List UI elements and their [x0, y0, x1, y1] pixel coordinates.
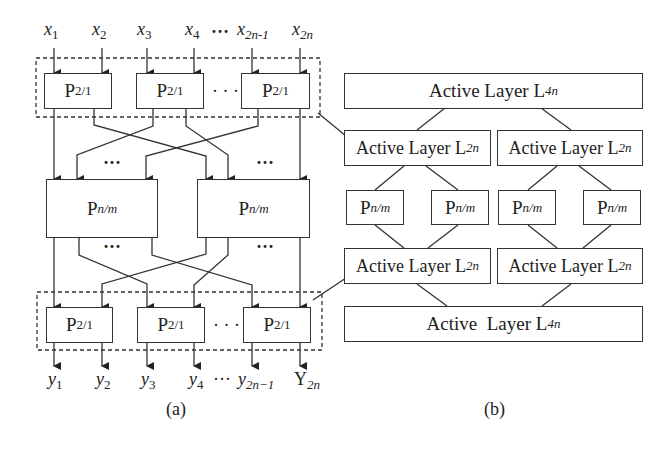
- caption-b: (b): [484, 399, 505, 420]
- box-base: P: [263, 314, 274, 336]
- module-pnm-4: Pn/m: [583, 190, 641, 225]
- box-subscript: n/m: [98, 201, 118, 217]
- input-label-x2n-1: x2n-1: [237, 20, 269, 41]
- module-pnm-1: Pn/m: [346, 190, 404, 225]
- box-subscript: n/m: [456, 200, 476, 216]
- box-subscript: n/m: [523, 200, 543, 216]
- active-layer-l2n-lower-right: Active Layer L2n: [497, 248, 643, 284]
- box-base: P: [66, 314, 77, 336]
- module-pnm-3: Pn/m: [498, 190, 556, 225]
- layer-text: Active Layer L: [427, 313, 548, 335]
- input-subscript: 2n: [300, 27, 313, 42]
- module-pnm-2: Pn/m: [431, 190, 489, 225]
- layer-subscript: 2n: [618, 140, 631, 156]
- output-base: Y: [294, 369, 307, 389]
- top-permuter-box-3: P2/1: [241, 73, 310, 109]
- layer-text: Active Layer L: [356, 138, 466, 159]
- input-base: x: [292, 19, 300, 39]
- output-base: y: [238, 369, 246, 389]
- input-subscript: 4: [193, 27, 200, 42]
- input-label-x4: x4: [185, 20, 200, 41]
- box-base: P: [512, 197, 523, 219]
- box-base: P: [64, 80, 75, 102]
- active-layer-l4n-top: Active Layer L4n: [344, 73, 643, 109]
- top-permuter-box-2: P2/1: [136, 73, 204, 109]
- box-subscript: 2/1: [168, 317, 185, 333]
- box-subscript: 2/1: [272, 83, 289, 99]
- input-base: x: [237, 19, 245, 39]
- layer-subscript: 2n: [466, 258, 479, 274]
- output-subscript: 2: [104, 377, 111, 392]
- layer-subscript: 2n: [618, 258, 631, 274]
- box-subscript: n/m: [249, 201, 269, 217]
- top-permuter-box-1: P2/1: [44, 73, 112, 109]
- bottom-permuter-box-2: P2/1: [137, 307, 205, 343]
- input-label-x2: x2: [92, 20, 107, 41]
- input-base: x: [185, 19, 193, 39]
- box-subscript: 2/1: [76, 317, 93, 333]
- input-base: x: [44, 19, 52, 39]
- box-base: P: [238, 198, 249, 220]
- output-base: y: [189, 369, 197, 389]
- output-subscript: 3: [149, 377, 156, 392]
- box-subscript: n/m: [371, 200, 391, 216]
- output-subscript: 2n: [307, 377, 320, 392]
- output-label-y2: y2: [96, 370, 111, 391]
- output-subscript: 2n−1: [246, 377, 274, 392]
- box-subscript: 2/1: [75, 83, 92, 99]
- input-label-x1: x1: [44, 20, 59, 41]
- layer-text: Active Layer L: [509, 138, 619, 159]
- output-label-y3: y3: [141, 370, 156, 391]
- active-layer-l2n-upper-left: Active Layer L2n: [344, 130, 491, 166]
- upper-wiring-ellipsis-left: ···: [103, 154, 121, 172]
- layer-text: Active Layer L: [509, 256, 619, 277]
- box-base: P: [87, 198, 98, 220]
- middle-permuter-box-2: Pn/m: [197, 179, 310, 238]
- input-base: x: [92, 19, 100, 39]
- layer-subscript: 4n: [545, 83, 558, 99]
- layer-subscript: 4n: [547, 316, 560, 332]
- upper-wiring-ellipsis-right: ···: [256, 154, 274, 172]
- output-ellipsis: ···: [213, 370, 231, 388]
- box-subscript: 2/1: [167, 83, 184, 99]
- layer-text: Active Layer L: [429, 80, 545, 102]
- output-label-y2n: Y2n: [294, 370, 320, 391]
- active-layer-l2n-upper-right: Active Layer L2n: [497, 130, 643, 166]
- middle-permuter-box-1: Pn/m: [46, 179, 158, 238]
- box-base: P: [157, 314, 168, 336]
- bottom-stage-ellipsis: · · ·: [213, 316, 240, 334]
- box-base: P: [156, 80, 167, 102]
- lower-wiring-ellipsis-right: ···: [256, 238, 274, 256]
- output-base: y: [48, 369, 56, 389]
- bottom-permuter-box-3: P2/1: [243, 307, 311, 343]
- box-base: P: [445, 197, 456, 219]
- layer-text: Active Layer L: [356, 256, 466, 277]
- active-layer-l2n-lower-left: Active Layer L2n: [344, 248, 491, 284]
- input-subscript: 1: [52, 27, 59, 42]
- input-ellipsis: …: [211, 18, 229, 36]
- box-subscript: n/m: [608, 200, 628, 216]
- output-label-y4: y4: [189, 370, 204, 391]
- output-subscript: 1: [56, 377, 63, 392]
- box-base: P: [262, 80, 273, 102]
- output-label-y2n-1: y2n−1: [238, 370, 274, 391]
- output-base: y: [96, 369, 104, 389]
- input-subscript: 2n-1: [245, 27, 269, 42]
- input-label-x3: x3: [137, 20, 152, 41]
- box-base: P: [597, 197, 608, 219]
- bottom-permuter-box-1: P2/1: [46, 307, 113, 343]
- input-label-x2n: x2n: [292, 20, 313, 41]
- output-label-y1: y1: [48, 370, 63, 391]
- layer-subscript: 2n: [466, 140, 479, 156]
- active-layer-l4n-bottom: Active Layer L4n: [344, 306, 643, 342]
- caption-a: (a): [166, 399, 186, 420]
- output-subscript: 4: [197, 377, 204, 392]
- output-base: y: [141, 369, 149, 389]
- input-base: x: [137, 19, 145, 39]
- top-stage-ellipsis: · · ·: [212, 82, 239, 100]
- input-subscript: 3: [145, 27, 152, 42]
- input-subscript: 2: [100, 27, 107, 42]
- lower-wiring-ellipsis-left: ···: [103, 238, 121, 256]
- box-base: P: [360, 197, 371, 219]
- box-subscript: 2/1: [274, 317, 291, 333]
